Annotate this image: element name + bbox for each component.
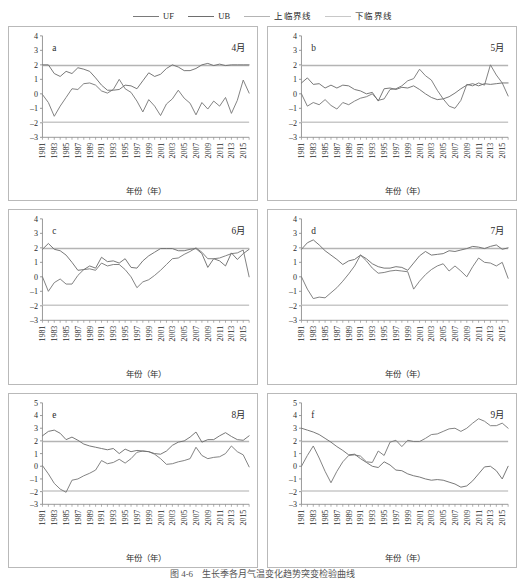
svg-text:1985: 1985 — [321, 143, 330, 159]
chart-panel-d: –3–2–10123419811983198519871989199119931… — [267, 209, 517, 384]
svg-text:1991: 1991 — [356, 509, 365, 525]
svg-text:2: 2 — [293, 61, 297, 70]
legend-swatch-1 — [188, 16, 214, 17]
svg-text:1995: 1995 — [380, 143, 389, 159]
legend-item-0: UF — [133, 12, 174, 21]
x-axis-label-c: 年份（年） — [126, 370, 166, 380]
svg-text:2013: 2013 — [227, 143, 236, 159]
svg-text:–1: –1 — [288, 475, 297, 484]
svg-text:5: 5 — [34, 398, 38, 407]
panel-letter-e: e — [52, 409, 56, 419]
chart-panel-inner-c: –3–2–10123419811983198519871989199119931… — [9, 210, 257, 383]
svg-text:1997: 1997 — [392, 326, 401, 342]
svg-text:3: 3 — [293, 424, 297, 433]
svg-text:–2: –2 — [29, 487, 38, 496]
svg-text:1985: 1985 — [321, 509, 330, 525]
panel-month-c: 6月 — [232, 226, 246, 236]
svg-text:2009: 2009 — [204, 326, 213, 342]
svg-text:1999: 1999 — [145, 143, 154, 159]
svg-text:3: 3 — [34, 46, 38, 55]
svg-text:1983: 1983 — [309, 509, 318, 525]
svg-text:1981: 1981 — [297, 326, 306, 342]
svg-text:–3: –3 — [288, 500, 297, 509]
chart-svg-f: –3–2–10123451981198319851987198919911993… — [268, 394, 516, 567]
svg-text:–1: –1 — [288, 288, 297, 297]
svg-text:1995: 1995 — [121, 143, 130, 159]
svg-text:2005: 2005 — [439, 143, 448, 159]
svg-text:4: 4 — [293, 215, 297, 224]
svg-text:–1: –1 — [29, 475, 38, 484]
chart-panel-f: –3–2–10123451981198319851987198919911993… — [267, 393, 517, 568]
figure-caption: 图 4-6 生长季各月气温变化趋势突变检验曲线 — [0, 568, 525, 581]
svg-text:2001: 2001 — [157, 143, 166, 159]
svg-text:2009: 2009 — [204, 509, 213, 525]
svg-text:0: 0 — [293, 462, 297, 471]
svg-text:1: 1 — [34, 259, 38, 268]
svg-text:2005: 2005 — [180, 143, 189, 159]
svg-text:2005: 2005 — [439, 326, 448, 342]
svg-text:1999: 1999 — [404, 143, 413, 159]
svg-text:0: 0 — [293, 90, 297, 99]
svg-text:2015: 2015 — [498, 143, 507, 159]
svg-text:–2: –2 — [29, 119, 38, 128]
legend-label-1: UB — [218, 12, 230, 21]
svg-text:1999: 1999 — [404, 509, 413, 525]
svg-text:3: 3 — [293, 46, 297, 55]
svg-text:1983: 1983 — [50, 143, 59, 159]
svg-text:2007: 2007 — [192, 326, 201, 342]
svg-text:2011: 2011 — [475, 326, 484, 342]
svg-text:2015: 2015 — [498, 326, 507, 342]
svg-text:2009: 2009 — [463, 143, 472, 159]
chart-panel-c: –3–2–10123419811983198519871989199119931… — [8, 209, 258, 384]
panel-grid: –3–2–10123419811983198519871989199119931… — [0, 26, 525, 568]
svg-text:2009: 2009 — [204, 143, 213, 159]
svg-text:0: 0 — [34, 90, 38, 99]
svg-text:2001: 2001 — [416, 326, 425, 342]
svg-text:1: 1 — [34, 449, 38, 458]
svg-text:1995: 1995 — [380, 326, 389, 342]
svg-text:1997: 1997 — [392, 143, 401, 159]
svg-text:1989: 1989 — [86, 326, 95, 342]
svg-text:2: 2 — [34, 437, 38, 446]
svg-text:1983: 1983 — [50, 509, 59, 525]
svg-text:1999: 1999 — [145, 326, 154, 342]
svg-text:–2: –2 — [288, 119, 297, 128]
svg-text:1997: 1997 — [133, 143, 142, 159]
svg-text:3: 3 — [34, 424, 38, 433]
svg-text:1995: 1995 — [121, 326, 130, 342]
figure-caption-text: 图 4-6 生长季各月气温变化趋势突变检验曲线 — [170, 568, 355, 581]
panel-letter-d: d — [311, 226, 316, 236]
svg-text:1993: 1993 — [368, 509, 377, 525]
svg-text:2001: 2001 — [157, 509, 166, 525]
legend-swatch-3 — [325, 16, 351, 17]
svg-text:2015: 2015 — [498, 509, 507, 525]
svg-text:2001: 2001 — [416, 143, 425, 159]
svg-text:1991: 1991 — [97, 326, 106, 342]
chart-svg-b: –3–2–10123419811983198519871989199119931… — [268, 27, 516, 200]
svg-text:4: 4 — [34, 215, 38, 224]
svg-text:–1: –1 — [288, 104, 297, 113]
panel-letter-f: f — [311, 409, 315, 419]
svg-text:1999: 1999 — [404, 326, 413, 342]
svg-text:1987: 1987 — [74, 509, 83, 525]
svg-text:2003: 2003 — [168, 509, 177, 525]
svg-text:1989: 1989 — [86, 143, 95, 159]
svg-text:1985: 1985 — [321, 326, 330, 342]
svg-text:2007: 2007 — [451, 509, 460, 525]
chart-panel-inner-b: –3–2–10123419811983198519871989199119931… — [268, 27, 516, 200]
panel-letter-c: c — [52, 226, 56, 236]
svg-text:2001: 2001 — [416, 509, 425, 525]
svg-text:2011: 2011 — [216, 326, 225, 342]
svg-text:1991: 1991 — [356, 326, 365, 342]
svg-text:1993: 1993 — [368, 326, 377, 342]
svg-text:1997: 1997 — [392, 509, 401, 525]
panel-month-b: 5月 — [491, 43, 505, 53]
x-axis-label-e: 年份（年） — [126, 553, 166, 563]
chart-panel-e: –3–2–10123451981198319851987198919911993… — [8, 393, 258, 568]
svg-text:2009: 2009 — [463, 509, 472, 525]
svg-text:1993: 1993 — [109, 326, 118, 342]
svg-text:2011: 2011 — [216, 143, 225, 159]
svg-text:1989: 1989 — [345, 326, 354, 342]
x-axis-label-f: 年份（年） — [385, 553, 425, 563]
legend-label-3: 下临界线 — [355, 12, 392, 21]
